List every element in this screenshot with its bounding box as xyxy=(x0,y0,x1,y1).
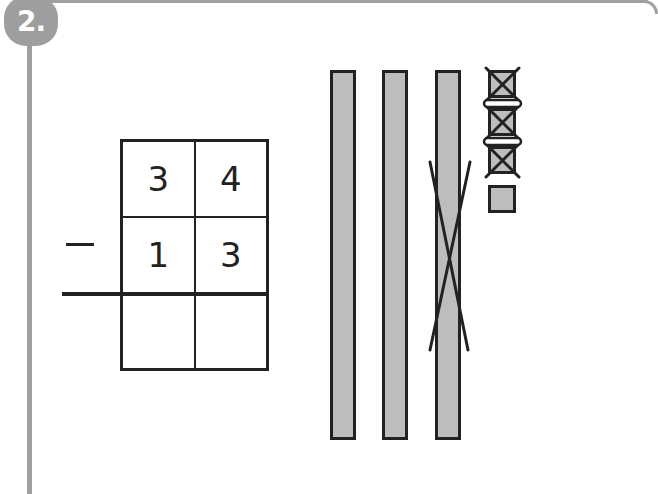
tens-rod-2 xyxy=(382,70,408,440)
minus-sign xyxy=(66,243,94,246)
minuend-ones-cell: 4 xyxy=(195,141,268,217)
subtrahend-ones-cell: 3 xyxy=(195,217,268,293)
subtrahend-tens-cell: 1 xyxy=(122,217,195,293)
cross-out-marks xyxy=(0,0,658,494)
unit-cube-1-crossed xyxy=(488,70,516,98)
unit-cube-4 xyxy=(488,185,516,213)
sum-line xyxy=(62,292,269,296)
frame-left-border xyxy=(27,40,32,494)
tens-rod-1 xyxy=(330,70,356,440)
unit-cube-2-crossed xyxy=(488,108,516,136)
cube-separator-2 xyxy=(484,138,521,145)
subtraction-grid: 3 4 1 3 xyxy=(120,139,269,371)
result-tens-input[interactable] xyxy=(122,293,195,369)
result-ones-input[interactable] xyxy=(195,293,268,369)
frame-top-border xyxy=(40,0,648,3)
cube-separator-1 xyxy=(484,100,521,107)
frame-corner xyxy=(644,0,658,14)
tens-rod-3-crossed xyxy=(435,70,461,440)
exercise-number-badge: 2. xyxy=(4,0,58,46)
unit-cube-3-crossed xyxy=(488,146,516,174)
minuend-tens-cell: 3 xyxy=(122,141,195,217)
